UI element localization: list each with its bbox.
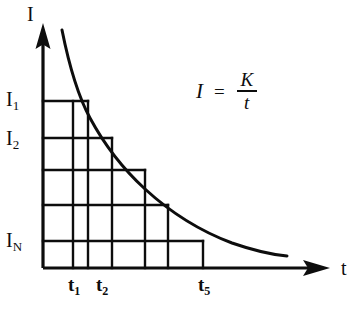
y-tick-label-i1: I1: [6, 89, 19, 109]
x-tick-label-t2: t2: [96, 275, 108, 294]
y-tick-base-in: I: [6, 229, 13, 251]
y-tick-label-i2: I2: [6, 128, 19, 148]
hyperbola-curve: [62, 30, 287, 256]
equation-annotation: I = K t: [196, 70, 257, 112]
y-tick-base-i1: I: [6, 88, 13, 110]
x-tick-sub-t5: 5: [204, 284, 210, 298]
equation-denominator: t: [242, 92, 251, 112]
y-axis-title: I: [27, 4, 34, 24]
x-tick-sub-t1: 1: [74, 284, 80, 298]
staircase-grid: [43, 101, 203, 268]
x-tick-label-t5: t5: [198, 275, 210, 294]
y-tick-base-i2: I: [6, 127, 13, 149]
y-tick-sub-i2: 2: [13, 137, 20, 152]
x-tick-label-t1: t1: [68, 275, 80, 294]
y-tick-label-in: IN: [6, 230, 22, 250]
x-tick-sub-t2: 2: [102, 284, 108, 298]
current-vs-time-figure: I t I1 I2 IN t1 t2 t5 I = K t: [0, 0, 361, 316]
x-axis: [43, 260, 330, 276]
equation-equals-sign: =: [214, 82, 225, 101]
x-axis-title: t: [341, 258, 347, 278]
plot-canvas: [0, 0, 361, 316]
y-tick-sub-i1: 1: [13, 98, 20, 113]
equation-lhs: I: [196, 81, 203, 102]
equation-numerator: K: [238, 70, 255, 90]
y-tick-sub-in: N: [13, 239, 22, 254]
y-axis: [36, 23, 51, 268]
equation-fraction: K t: [237, 70, 257, 112]
